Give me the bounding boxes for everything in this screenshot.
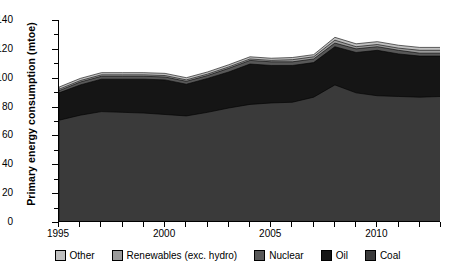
plot-area xyxy=(58,20,440,222)
y-tick-label: 60 xyxy=(0,129,13,140)
x-tick-mark xyxy=(100,222,101,227)
x-tick-mark xyxy=(58,222,59,227)
x-tick-mark xyxy=(249,222,250,227)
legend-item-renewables-exc-hydro[interactable]: Renewables (exc. hydro) xyxy=(112,250,238,261)
stacked-area-chart: Primary energy consumption (mtoe) 020406… xyxy=(0,0,455,275)
legend-label: Other xyxy=(70,250,95,261)
legend-item-oil[interactable]: Oil xyxy=(321,250,348,261)
y-tick-label: 120 xyxy=(0,43,13,54)
legend-swatch-icon xyxy=(55,250,66,261)
y-tick-label: 140 xyxy=(0,14,13,25)
x-tick-mark xyxy=(313,222,314,227)
x-tick-mark xyxy=(419,222,420,227)
x-tick-mark xyxy=(270,222,271,227)
y-tick-label: 40 xyxy=(0,158,13,169)
legend-item-nuclear[interactable]: Nuclear xyxy=(254,250,303,261)
x-tick-mark xyxy=(143,222,144,227)
x-tick-mark xyxy=(79,222,80,227)
y-tick-label: 100 xyxy=(0,72,13,83)
legend-swatch-icon xyxy=(112,250,123,261)
x-tick-mark xyxy=(122,222,123,227)
x-tick-mark xyxy=(398,222,399,227)
x-tick-label: 1995 xyxy=(36,228,80,239)
x-tick-mark xyxy=(207,222,208,227)
legend-label: Renewables (exc. hydro) xyxy=(127,250,238,261)
y-tick-label: 0 xyxy=(0,216,13,227)
legend-swatch-icon xyxy=(365,250,376,261)
y-tick-label: 20 xyxy=(0,187,13,198)
legend-swatch-icon xyxy=(254,250,265,261)
chart-legend: OtherRenewables (exc. hydro)NuclearOilCo… xyxy=(0,250,455,261)
x-tick-label: 2000 xyxy=(142,228,186,239)
x-tick-mark xyxy=(228,222,229,227)
y-axis-title: Primary energy consumption (mtoe) xyxy=(25,9,37,219)
x-tick-mark xyxy=(355,222,356,227)
x-tick-label: 2005 xyxy=(248,228,292,239)
x-tick-label: 2010 xyxy=(354,228,398,239)
x-tick-mark xyxy=(376,222,377,227)
legend-swatch-icon xyxy=(321,250,332,261)
area-series-group xyxy=(59,20,440,222)
legend-label: Coal xyxy=(380,250,401,261)
x-tick-mark xyxy=(164,222,165,227)
legend-label: Nuclear xyxy=(269,250,303,261)
x-tick-mark xyxy=(440,222,441,227)
legend-item-other[interactable]: Other xyxy=(55,250,95,261)
x-tick-mark xyxy=(185,222,186,227)
y-tick-label: 80 xyxy=(0,101,13,112)
x-tick-mark xyxy=(291,222,292,227)
legend-item-coal[interactable]: Coal xyxy=(365,250,401,261)
legend-label: Oil xyxy=(336,250,348,261)
x-tick-mark xyxy=(334,222,335,227)
